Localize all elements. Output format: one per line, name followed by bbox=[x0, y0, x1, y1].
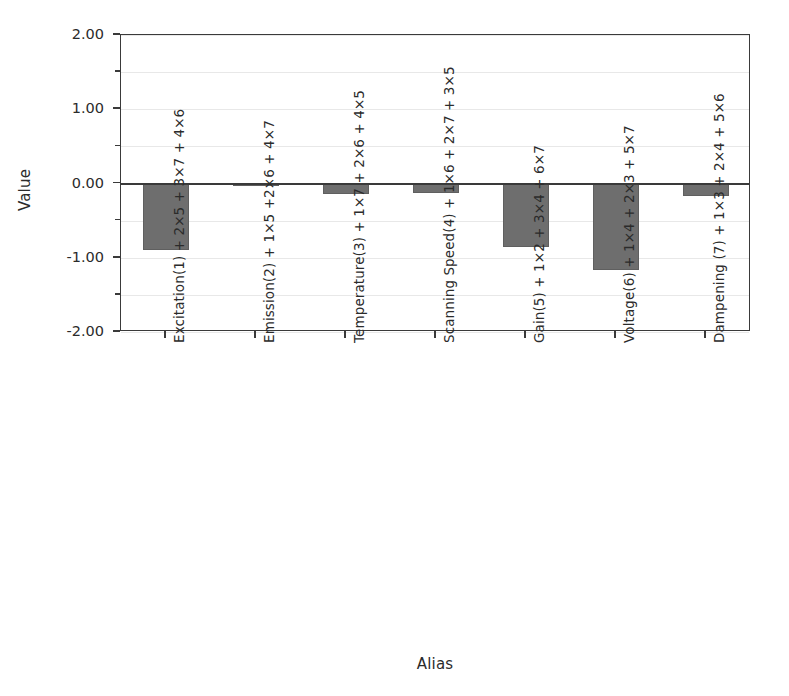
gridline bbox=[121, 35, 749, 36]
y-axis-minor-tick bbox=[115, 219, 120, 221]
x-axis-category-label: Excitation(1) + 2×5 + 3×7 + 4×6 bbox=[171, 109, 187, 343]
y-axis-tick bbox=[113, 256, 120, 258]
y-axis-title: Value bbox=[16, 140, 34, 240]
x-axis-tick bbox=[704, 331, 706, 338]
y-axis-tick-label: -1.00 bbox=[42, 249, 104, 265]
y-axis-tick-label: 1.00 bbox=[42, 100, 104, 116]
gridline bbox=[121, 72, 749, 73]
x-axis-category-label: Temperature(3) + 1×7 + 2×6 + 4×5 bbox=[351, 90, 367, 343]
gridline bbox=[121, 109, 749, 110]
x-axis-tick bbox=[254, 331, 256, 338]
x-axis-category-label: Voltage(6) + 1×4 + 2×3 + 5×7 bbox=[621, 125, 637, 343]
x-axis-tick bbox=[344, 331, 346, 338]
x-axis-title: Alias bbox=[120, 655, 750, 673]
x-axis-tick bbox=[164, 331, 166, 338]
gridline bbox=[121, 258, 749, 259]
y-axis-minor-tick bbox=[115, 145, 120, 147]
x-axis-category-label: Emission(2) + 1×5 +2×6 + 4×7 bbox=[261, 120, 277, 343]
gridline bbox=[121, 146, 749, 147]
x-axis-tick bbox=[614, 331, 616, 338]
y-axis-tick bbox=[113, 330, 120, 332]
y-axis-tick-label: 2.00 bbox=[42, 26, 104, 42]
x-axis-category-label: Dampening (7) + 1×3 + 2×4 + 5×6 bbox=[711, 93, 727, 343]
y-axis-tick bbox=[113, 107, 120, 109]
y-axis-tick bbox=[113, 182, 120, 184]
x-axis-tick bbox=[524, 331, 526, 338]
x-axis-category-label: Gain(5) + 1×2 + 3×4 + 6×7 bbox=[531, 145, 547, 343]
y-axis-tick-label: -2.00 bbox=[42, 323, 104, 339]
y-axis-minor-tick bbox=[115, 70, 120, 72]
gridline bbox=[121, 295, 749, 296]
y-axis-tick bbox=[113, 33, 120, 35]
x-axis-tick bbox=[434, 331, 436, 338]
y-axis-tick-label: 0.00 bbox=[42, 175, 104, 191]
zero-baseline bbox=[121, 183, 749, 185]
gridline bbox=[121, 221, 749, 222]
x-axis-category-label: Scanning Speed(4) + 1×6 + 2×7 + 3×5 bbox=[441, 66, 457, 343]
plot-area bbox=[120, 34, 750, 331]
bar-chart-figure: Value 2.001.000.00-1.00-2.00 Excitation(… bbox=[0, 0, 789, 696]
y-axis-minor-tick bbox=[115, 293, 120, 295]
